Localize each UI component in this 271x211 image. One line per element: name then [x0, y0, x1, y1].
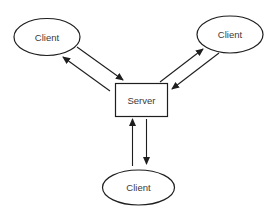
client-node-bottom: Client — [103, 170, 175, 205]
client-label: Client — [126, 182, 151, 193]
arrow-client-top-left-to-server — [77, 47, 123, 80]
arrow-client-top-right-to-server — [172, 53, 219, 89]
client-label: Client — [35, 32, 60, 43]
arrow-server-to-client-top-right — [160, 49, 203, 82]
server-label: Server — [128, 95, 156, 106]
client-node-top-right: Client — [197, 16, 263, 53]
client-label: Client — [218, 29, 243, 40]
server-node: Server — [116, 84, 168, 117]
client-server-diagram: Client Client Server Client — [0, 0, 271, 211]
client-node-top-left: Client — [14, 19, 80, 56]
arrow-server-to-client-top-left — [63, 57, 110, 91]
